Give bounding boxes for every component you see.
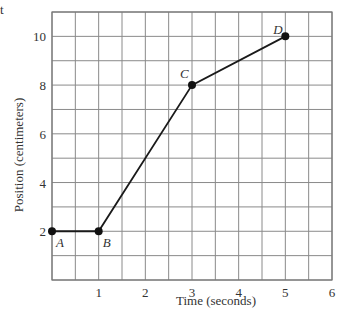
data-point-b <box>95 227 103 235</box>
y-axis-label: Position (centimeters) <box>11 98 26 212</box>
point-label-d: D <box>272 22 283 37</box>
x-tick-label: 2 <box>142 285 149 300</box>
x-tick-label: 6 <box>329 285 336 300</box>
x-axis-label: Time (seconds) <box>176 293 256 308</box>
grid <box>52 12 332 280</box>
point-label-b: B <box>103 235 111 250</box>
position-time-chart: t 123456 246810 ABCD Time (seconds) Posi… <box>0 0 349 321</box>
corner-text-fragment: t <box>0 2 4 17</box>
y-tick-label: 10 <box>33 29 46 44</box>
x-tick-label: 1 <box>95 285 102 300</box>
x-tick-label: 5 <box>282 285 289 300</box>
point-label-c: C <box>180 66 189 81</box>
y-tick-label: 2 <box>40 224 47 239</box>
data-point-c <box>188 81 196 89</box>
y-tick-label: 8 <box>40 78 47 93</box>
point-label-a: A <box>55 235 64 250</box>
y-tick-label: 4 <box>40 176 47 191</box>
y-tick-label: 6 <box>40 127 47 142</box>
data-point-a <box>48 227 56 235</box>
y-axis-ticks: 246810 <box>33 29 47 239</box>
